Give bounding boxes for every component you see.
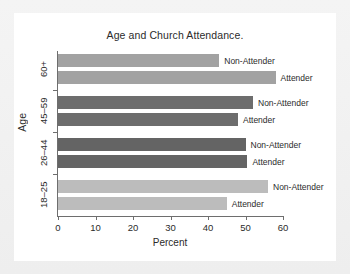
chart-title: Age and Church Attendance. (14, 29, 336, 41)
x-axis-tick-label: 40 (203, 222, 214, 233)
bar-value-label: Non-Attender (258, 98, 309, 108)
bar (58, 54, 219, 67)
bar-row: Attender (58, 71, 283, 84)
bar (58, 96, 253, 109)
y-axis-category-label: 26–44 (36, 138, 50, 168)
x-axis-tick (58, 216, 59, 220)
x-axis-tick (246, 216, 247, 220)
bar (58, 180, 268, 193)
bar-value-label: Non-Attender (273, 182, 324, 192)
bar (58, 113, 238, 126)
x-axis-tick-label: 60 (278, 222, 289, 233)
bar (58, 197, 227, 210)
bar (58, 138, 246, 151)
x-axis-tick-label: 20 (128, 222, 139, 233)
x-axis-tick-label: 50 (240, 222, 251, 233)
bar-value-label: Attender (232, 199, 264, 209)
bar-row: Attender (58, 197, 283, 210)
y-axis-category-label: 18–25 (36, 180, 50, 210)
x-axis-tick-label: 0 (55, 222, 60, 233)
bar (58, 71, 276, 84)
y-axis-title: Age (16, 113, 28, 132)
bar (58, 155, 247, 168)
bar-value-label: Attender (281, 73, 313, 83)
bar-row: Non-Attender (58, 180, 283, 193)
chart-card: Age and Church Attendance. Age Non-Atten… (14, 13, 336, 261)
x-axis-tick (283, 216, 284, 220)
y-axis-tick (53, 132, 57, 133)
bar-row: Attender (58, 155, 283, 168)
bar-row: Attender (58, 113, 283, 126)
x-axis-title: Percent (57, 237, 283, 248)
x-axis-tick (208, 216, 209, 220)
x-axis-tick-label: 30 (165, 222, 176, 233)
bar-row: Non-Attender (58, 54, 283, 67)
bar-value-label: Non-Attender (251, 140, 302, 150)
x-axis-tick (133, 216, 134, 220)
y-axis-tick (53, 174, 57, 175)
figure-root: Age and Church Attendance. Age Non-Atten… (0, 0, 350, 274)
bar-row: Non-Attender (58, 96, 283, 109)
bar-value-label: Attender (252, 157, 284, 167)
x-axis-tick (171, 216, 172, 220)
bar-value-label: Non-Attender (224, 56, 275, 66)
x-axis-tick (96, 216, 97, 220)
y-axis-tick (53, 90, 57, 91)
x-axis-tick-label: 10 (90, 222, 101, 233)
y-axis-category-label: 45–59 (36, 96, 50, 126)
bar-value-label: Attender (243, 115, 275, 125)
y-axis-category-label: 60+ (36, 54, 50, 84)
bar-row: Non-Attender (58, 138, 283, 151)
